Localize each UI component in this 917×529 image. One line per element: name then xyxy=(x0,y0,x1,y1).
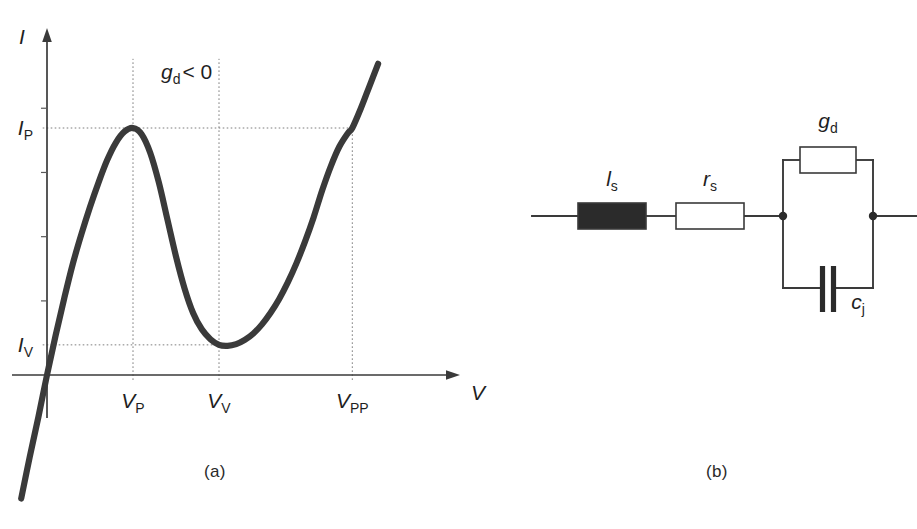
y-tick-label-IV: IV xyxy=(18,333,34,360)
annotation-operator: < 0 xyxy=(182,60,212,83)
circuit-label-gd-sub: d xyxy=(830,120,838,136)
panel-b-equivalent-circuit: lsrsgdcj xyxy=(500,0,917,440)
x-tick-label-VPP-sub: PP xyxy=(350,400,369,416)
y-tick-label-IP-sub: P xyxy=(24,127,33,143)
x-tick-label-VPP: VPP xyxy=(336,389,369,416)
circuit-label-ls: ls xyxy=(606,167,618,194)
x-axis-title: V xyxy=(471,381,487,404)
circuit-label-gd: gd xyxy=(818,109,837,136)
x-tick-label-VP-sub: P xyxy=(135,400,144,416)
page-scan-artifact xyxy=(28,505,748,529)
equivalent-circuit-diagram: lsrsgdcj xyxy=(500,0,917,440)
y-tick-label-IP: IP xyxy=(18,116,33,143)
circuit-label-gd-var: g xyxy=(818,109,830,132)
caption-panel-a: (a) xyxy=(204,462,226,482)
junction-node-right xyxy=(869,212,877,220)
resistor-rs-symbol xyxy=(676,203,744,229)
circuit-label-cj-var: c xyxy=(851,290,862,313)
panel-a-iv-chart: I V IPIV VPVVVPP gd< 0 xyxy=(0,0,500,440)
x-tick-label-VP: VP xyxy=(121,389,144,416)
annotation-sub: d xyxy=(173,71,181,87)
x-tick-label-VV-sub: V xyxy=(221,400,231,416)
y-tick-label-IV-sub: V xyxy=(24,344,34,360)
conductance-gd-symbol xyxy=(800,147,856,173)
axes-group xyxy=(12,38,450,418)
y-axis-arrow-icon xyxy=(42,28,52,42)
inductor-ls-symbol xyxy=(578,203,646,229)
capacitor-cj-symbol xyxy=(823,266,834,312)
axis-tick-marks-group xyxy=(41,108,47,301)
iv-curve-path xyxy=(21,64,378,499)
x-axis-arrow-icon xyxy=(446,370,460,380)
annotation-var: g xyxy=(161,60,173,83)
circuit-label-cj: cj xyxy=(851,290,865,317)
figure-root: I V IPIV VPVVVPP gd< 0 xyxy=(0,0,917,529)
x-tick-label-VV: VV xyxy=(207,389,231,416)
annotation-gd-lt-zero: gd< 0 xyxy=(161,60,212,87)
iv-characteristic-chart: I V IPIV VPVVVPP gd< 0 xyxy=(0,0,500,440)
junction-node-left xyxy=(779,212,787,220)
circuit-label-rs: rs xyxy=(703,167,717,194)
caption-panel-b: (b) xyxy=(706,462,728,482)
x-tick-labels-group: VPVVVPP xyxy=(121,389,368,416)
negative-conductance-annotation: gd< 0 xyxy=(161,60,212,87)
circuit-label-rs-sub: s xyxy=(710,178,717,194)
circuit-label-cj-sub: j xyxy=(861,301,865,317)
y-axis-title: I xyxy=(19,25,25,48)
y-tick-labels-group: IPIV xyxy=(18,116,34,360)
circuit-label-ls-sub: s xyxy=(611,178,618,194)
